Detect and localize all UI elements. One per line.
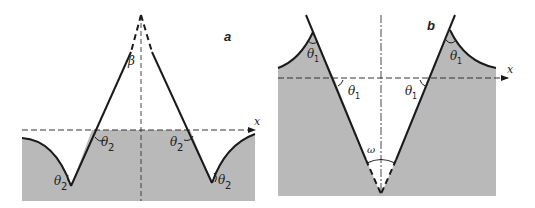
panel-b: b x ω θ 1 θ 1 θ 1 θ 1 bbox=[278, 15, 514, 196]
theta2-sub-1: 2 bbox=[108, 142, 114, 153]
theta2-sub-2: 2 bbox=[177, 142, 183, 153]
wedge-left-dashed-a bbox=[131, 15, 141, 52]
theta1-sub-4: 1 bbox=[457, 57, 462, 66]
theta1-sub-1: 1 bbox=[314, 55, 319, 64]
x-axis-label-a: x bbox=[254, 115, 261, 128]
theta1-sub-2: 1 bbox=[355, 92, 360, 101]
panel-label-a: a bbox=[224, 29, 231, 44]
panel-a: a x β θ 2 θ 2 θ 2 θ 2 bbox=[22, 15, 261, 201]
beta-label: β bbox=[127, 54, 135, 68]
x-axis-label-b: x bbox=[507, 63, 514, 76]
omega-label: ω bbox=[367, 144, 375, 155]
theta2-sub-4: 2 bbox=[225, 180, 231, 191]
angle-arc-b3 bbox=[420, 80, 425, 86]
wetting-geometry-diagram: a x β θ 2 θ 2 θ 2 θ 2 bbox=[0, 0, 535, 208]
theta1-sub-3: 1 bbox=[412, 92, 417, 101]
theta2-sub-3: 2 bbox=[61, 181, 67, 192]
wedge-right-dashed-a bbox=[141, 15, 152, 52]
panel-label-b: b bbox=[427, 18, 435, 33]
angle-arc-b2 bbox=[338, 80, 343, 86]
